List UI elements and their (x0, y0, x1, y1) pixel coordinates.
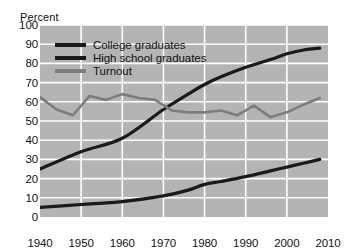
x-tick-label: 1940 (27, 237, 52, 249)
x-tick-label: 1980 (192, 237, 217, 249)
x-tick-label: 1970 (151, 237, 176, 249)
series-line (40, 159, 320, 207)
legend-item: College graduates (55, 38, 255, 51)
chart-legend: College graduatesHigh school graduatesTu… (55, 38, 255, 77)
legend-label: College graduates (93, 39, 186, 51)
legend-label: High school graduates (93, 52, 206, 64)
x-tick-label: 1960 (110, 237, 135, 249)
legend-label: Turnout (93, 65, 132, 77)
legend-item: Turnout (55, 64, 255, 77)
x-tick-label: 1950 (69, 237, 94, 249)
x-tick-label: 2000 (274, 237, 299, 249)
x-tick-label: 1990 (233, 237, 258, 249)
legend-swatch (55, 56, 86, 60)
chart-figure: Percent 0102030405060708090100 194019501… (0, 0, 352, 251)
legend-swatch (55, 69, 86, 73)
legend-swatch (55, 43, 86, 47)
x-tick-label: 2010 (315, 237, 340, 249)
legend-item: High school graduates (55, 51, 255, 64)
